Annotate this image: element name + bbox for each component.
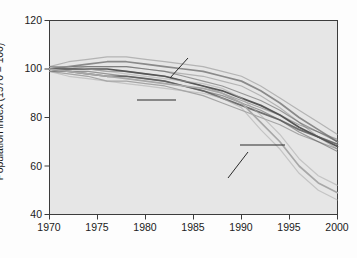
chart-figure: Population index (1970 = 100) 120 100 80… xyxy=(0,0,357,258)
plot-background xyxy=(50,21,338,215)
plot-svg xyxy=(0,0,357,258)
